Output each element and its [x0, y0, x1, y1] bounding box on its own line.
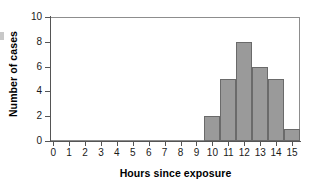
x-tick-mark [117, 142, 118, 146]
y-tick-label: 8 [2, 37, 42, 47]
x-tick-mark [228, 142, 229, 146]
x-tick-mark [196, 142, 197, 146]
x-tick-mark [85, 142, 86, 146]
y-tick-mark [45, 91, 50, 92]
bar [268, 79, 284, 141]
x-axis-title: Hours since exposure [50, 167, 301, 179]
y-tick-label: 0 [2, 136, 42, 146]
histogram-figure: Number of cases 0246810 0123456789101112… [0, 0, 316, 191]
x-axis-line [50, 141, 301, 142]
y-tick-label: 6 [2, 62, 42, 72]
y-tick-mark [45, 42, 50, 43]
bar [284, 129, 300, 141]
y-tick-mark [45, 67, 50, 68]
x-tick-mark [53, 142, 54, 146]
x-tick-mark [133, 142, 134, 146]
y-tick-mark [45, 116, 50, 117]
bar-group [50, 17, 300, 141]
bar [220, 79, 236, 141]
bar [236, 42, 252, 141]
x-tick-mark [149, 142, 150, 146]
y-tick-label: 4 [2, 86, 42, 96]
y-tick-mark [45, 141, 50, 142]
y-tick-label: 2 [2, 111, 42, 121]
x-tick-mark [181, 142, 182, 146]
x-tick-mark [276, 142, 277, 146]
x-tick-mark [260, 142, 261, 146]
bar [204, 116, 220, 141]
x-tick-label: 15 [281, 147, 303, 158]
x-tick-mark [244, 142, 245, 146]
x-tick-mark [101, 142, 102, 146]
y-tick-label: 10 [2, 12, 42, 22]
y-tick-mark [45, 17, 50, 18]
x-tick-mark [165, 142, 166, 146]
x-tick-mark [292, 142, 293, 146]
x-tick-mark [212, 142, 213, 146]
x-tick-mark [69, 142, 70, 146]
bar [252, 67, 268, 141]
